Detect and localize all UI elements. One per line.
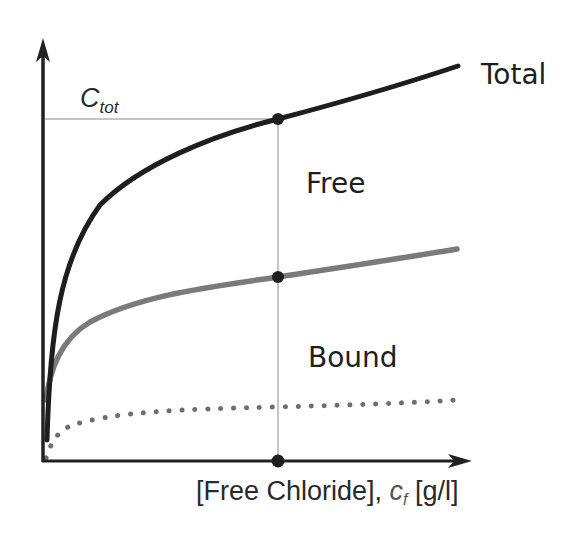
chloride-binding-chart: Ctot Total Free Bound [Free Chloride], c…: [0, 0, 587, 541]
total-label: Total: [480, 58, 546, 91]
total-marker: [272, 113, 284, 125]
x-axis-marker: [272, 455, 285, 468]
ctot-label: Ctot: [80, 83, 120, 117]
x-axis-label: [Free Chloride], cf [g/l]: [196, 476, 459, 508]
free-curve: [46, 249, 457, 400]
bound-label: Bound: [308, 341, 398, 374]
total-curve: [47, 66, 458, 440]
bound-curve: [46, 400, 456, 458]
free-label: Free: [306, 167, 365, 200]
free-marker: [272, 271, 284, 283]
